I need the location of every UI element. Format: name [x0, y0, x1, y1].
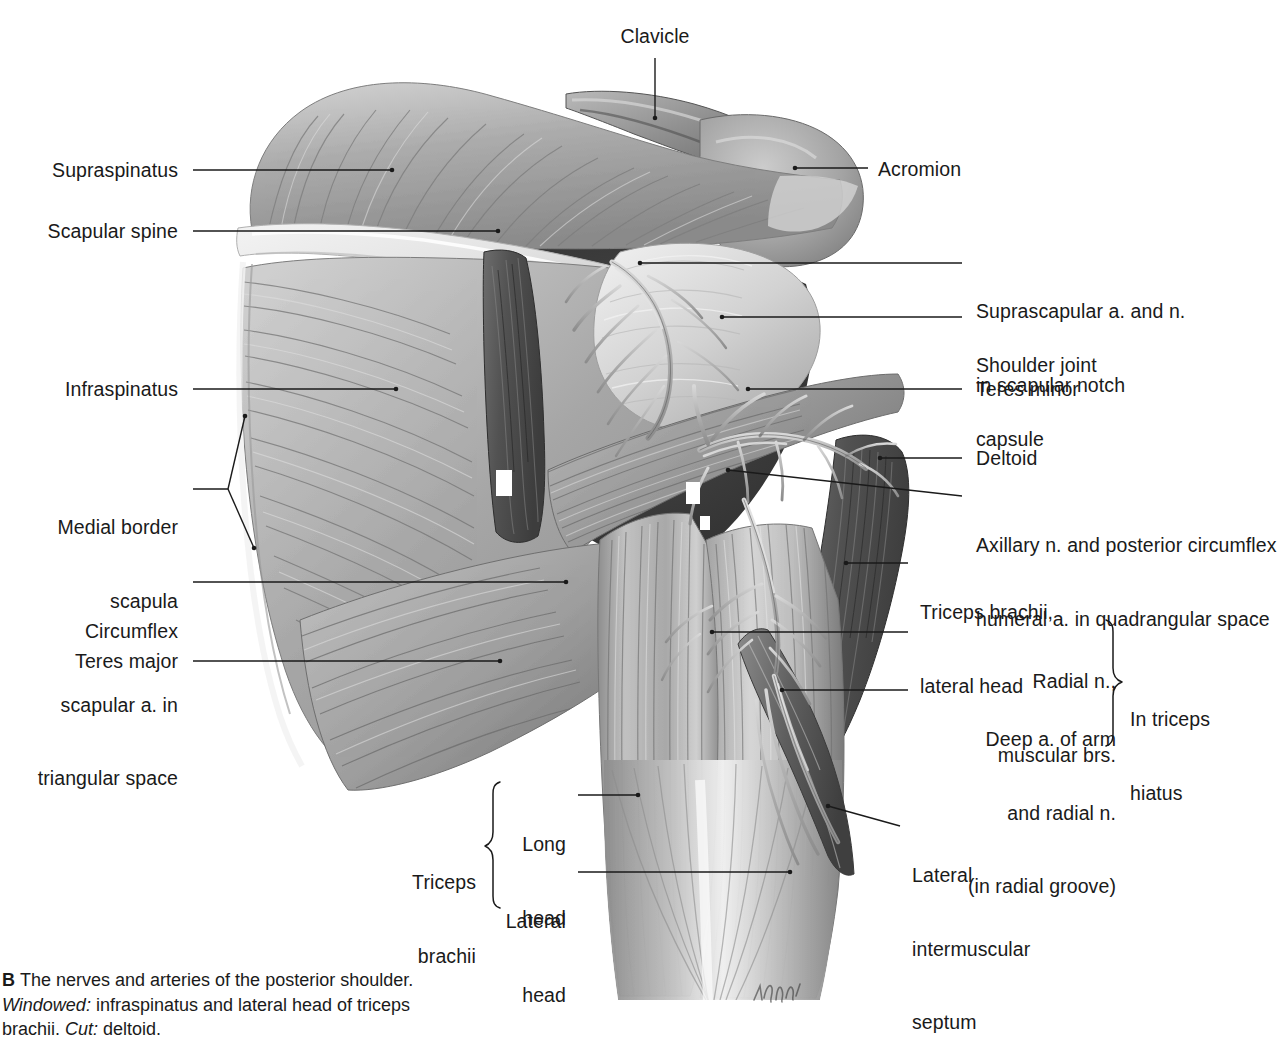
label-infraspinatus: Infraspinatus: [0, 377, 178, 402]
label-circumflex-line1: Circumflex: [0, 619, 178, 644]
label-in-triceps-hiatus-line2: hiatus: [1130, 781, 1210, 806]
label-lat-intermuscular-line1: Lateral: [912, 863, 1030, 888]
label-lat-intermuscular-line2: intermuscular: [912, 937, 1030, 962]
label-circumflex-scapular-artery: Circumflex scapular a. in triangular spa…: [0, 570, 178, 840]
label-supraspinatus: Supraspinatus: [0, 158, 178, 183]
label-circumflex-line3: triangular space: [0, 766, 178, 791]
anatomy-plate: Clavicle Acromion Supraspinatus Scapular…: [0, 0, 1281, 1058]
label-long-head-line1: Long: [400, 832, 566, 857]
label-lateral-intermuscular-septum: Lateral intermuscular septum: [912, 814, 1030, 1058]
caption-emphasis-cut: Cut:: [65, 1019, 98, 1039]
label-deltoid: Deltoid: [976, 446, 1037, 471]
label-medial-border-scapula-line1: Medial border: [0, 515, 178, 540]
label-circumflex-line2: scapular a. in: [0, 693, 178, 718]
figure-caption: BThe nerves and arteries of the posterio…: [2, 968, 442, 1042]
label-shoulder-joint-capsule: Shoulder joint capsule: [976, 304, 1097, 500]
caption-text-1: The nerves and arteries of the posterior…: [20, 970, 413, 990]
label-acromion: Acromion: [878, 157, 961, 182]
figure-letter: B: [2, 970, 15, 990]
label-shoulder-joint-line1: Shoulder joint: [976, 353, 1097, 378]
label-clavicle: Clavicle: [565, 24, 745, 49]
label-deep-a-line1: Deep a. of arm: [860, 727, 1116, 752]
label-scapular-spine: Scapular spine: [0, 219, 178, 244]
caption-emphasis-windowed: Windowed:: [2, 995, 91, 1015]
label-in-triceps-hiatus-line1: In triceps: [1130, 707, 1210, 732]
label-in-triceps-hiatus: In triceps hiatus: [1130, 658, 1210, 854]
label-lateral-head-line1: Lateral: [400, 909, 566, 934]
label-teres-major: Teres major: [0, 649, 178, 674]
label-lat-intermuscular-line3: septum: [912, 1010, 1030, 1035]
caption-text-3: deltoid.: [98, 1019, 161, 1039]
label-teres-minor: Teres minor: [976, 377, 1079, 402]
